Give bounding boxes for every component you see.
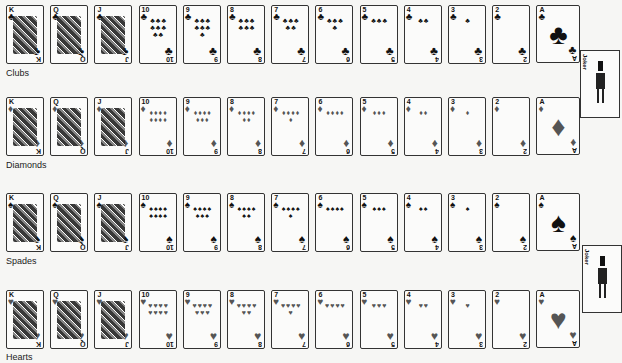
- pips: [501, 109, 523, 145]
- rank-index-inverted: 8: [258, 55, 262, 63]
- card-a-spades[interactable]: A♠♠A♠: [536, 193, 580, 251]
- hearts-icon: ♥: [450, 297, 456, 307]
- card-8-hearts[interactable]: 8♥♥8♥♥♥♥♥♥: [227, 290, 265, 349]
- card-k-spades[interactable]: K♠♠K: [6, 193, 44, 252]
- card-7-clubs[interactable]: 7♣♣7♣♣♣♣♣: [271, 5, 309, 64]
- card-5-hearts[interactable]: 5♥♥5♥♥♥: [360, 290, 398, 349]
- card-3-clubs[interactable]: 3♣♣3♣: [448, 5, 486, 64]
- card-5-diamonds[interactable]: 5♦♦5♦♦♦: [360, 97, 398, 156]
- card-10-diamonds[interactable]: 10♦♦10♦♦♦♦♦♦♦♦: [139, 97, 177, 156]
- rank-index-inverted: J: [125, 243, 129, 251]
- card-3-hearts[interactable]: 3♥♥3♥: [448, 290, 486, 349]
- card-k-hearts[interactable]: K♥♥K: [6, 290, 44, 349]
- suit-label-diamonds: Diamonds: [6, 160, 47, 170]
- card-4-clubs[interactable]: 4♣♣4♣♣: [404, 5, 442, 64]
- card-9-clubs[interactable]: 9♣♣9♣♣♣♣♣♣♣: [183, 5, 221, 64]
- rank-index-inverted: 8: [258, 147, 262, 155]
- card-j-spades[interactable]: J♠♠J: [94, 193, 132, 252]
- card-joker-2[interactable]: Joker: [582, 245, 622, 313]
- pips: ♣♣: [413, 17, 435, 53]
- card-4-hearts[interactable]: 4♥♥4♥♥: [404, 290, 442, 349]
- card-9-diamonds[interactable]: 9♦♦9♦♦♦♦♦♦♦: [183, 97, 221, 156]
- rank-index-inverted: 10: [166, 55, 174, 63]
- card-k-clubs[interactable]: K♣♣K: [6, 5, 44, 64]
- card-2-diamonds[interactable]: 2♦♦2: [492, 97, 530, 156]
- rank-index-inverted: J: [125, 147, 129, 155]
- card-2-clubs[interactable]: 2♣♣2: [492, 5, 530, 64]
- pips: ♦♦♦♦: [324, 109, 346, 145]
- hearts-icon: ♥: [229, 297, 235, 307]
- card-4-diamonds[interactable]: 4♦♦4♦♦: [404, 97, 442, 156]
- pips: [501, 302, 523, 338]
- pips: ♣♣♣♣: [324, 17, 346, 53]
- clubs-icon: ♣: [494, 12, 501, 22]
- pips: ♠♠♠♠♠♠: [236, 205, 258, 241]
- pips: ♣♣♣♣♣: [280, 17, 302, 53]
- card-9-spades[interactable]: 9♠♠9♠♠♠♠♠♠♠: [183, 193, 221, 252]
- card-6-clubs[interactable]: 6♣♣6♣♣♣♣: [315, 5, 353, 64]
- rank-index-inverted: J: [125, 340, 129, 348]
- card-j-hearts[interactable]: J♥♥J: [94, 290, 132, 349]
- pips: ♥♥♥♥♥♥: [236, 302, 258, 338]
- card-q-diamonds[interactable]: Q♦♦Q: [50, 97, 88, 156]
- card-5-spades[interactable]: 5♠♠5♠♠♠: [360, 193, 398, 252]
- card-7-hearts[interactable]: 7♥♥7♥♥♥♥♥: [271, 290, 309, 349]
- card-a-clubs[interactable]: A♣♣A♣: [536, 5, 580, 63]
- rank-index-inverted: 9: [214, 55, 218, 63]
- rank-index-inverted: 10: [166, 243, 174, 251]
- card-2-hearts[interactable]: 2♥♥2: [492, 290, 530, 349]
- rank-index-inverted: 7: [302, 340, 306, 348]
- card-9-hearts[interactable]: 9♥♥9♥♥♥♥♥♥♥: [183, 290, 221, 349]
- card-k-diamonds[interactable]: K♦♦K: [6, 97, 44, 156]
- diamonds-icon: ♦: [141, 104, 146, 114]
- pips: ♦♦: [413, 109, 435, 145]
- rank-index-inverted: 4: [435, 340, 439, 348]
- clubs-icon: ♣: [537, 20, 579, 50]
- card-q-clubs[interactable]: Q♣♣Q: [50, 5, 88, 64]
- card-7-spades[interactable]: 7♠♠7♠♠♠♠♠: [271, 193, 309, 252]
- hearts-icon: ♥: [362, 297, 368, 307]
- card-8-diamonds[interactable]: 8♦♦8♦♦♦♦♦♦: [227, 97, 265, 156]
- spades-icon: ♠: [450, 200, 455, 210]
- rank-index-inverted: 3: [479, 147, 483, 155]
- pips: ♥♥♥♥: [324, 302, 346, 338]
- card-4-spades[interactable]: 4♠♠4♠♠: [404, 193, 442, 252]
- card-10-clubs[interactable]: 10♣♣10♣♣♣♣♣♣♣♣: [139, 5, 177, 64]
- suit-label-clubs: Clubs: [6, 68, 29, 78]
- card-6-spades[interactable]: 6♠♠6♠♠♠♠: [315, 193, 353, 252]
- card-j-diamonds[interactable]: J♦♦J: [94, 97, 132, 156]
- spades-icon: ♠: [537, 208, 579, 238]
- card-q-spades[interactable]: Q♠♠Q: [50, 193, 88, 252]
- pips: ♦♦♦♦♦♦♦♦: [148, 109, 170, 145]
- hearts-icon: ♥: [185, 297, 191, 307]
- face-figure-icon: [13, 16, 37, 54]
- clubs-icon: ♣: [317, 12, 324, 22]
- card-6-hearts[interactable]: 6♥♥6♥♥♥♥: [315, 290, 353, 349]
- face-figure-icon: [57, 204, 81, 242]
- card-8-spades[interactable]: 8♠♠8♠♠♠♠♠♠: [227, 193, 265, 252]
- spades-icon: ♠: [273, 200, 278, 210]
- card-joker-1[interactable]: Joker: [580, 50, 620, 118]
- rank-index-inverted: 6: [346, 340, 350, 348]
- card-a-hearts[interactable]: A♥♥A♥: [536, 290, 580, 348]
- rank-index-inverted: J: [125, 55, 129, 63]
- card-10-spades[interactable]: 10♠♠10♠♠♠♠♠♠♠♠: [139, 193, 177, 252]
- rank-index-inverted: 4: [435, 147, 439, 155]
- card-10-hearts[interactable]: 10♥♥10♥♥♥♥♥♥♥♥: [139, 290, 177, 349]
- card-j-clubs[interactable]: J♣♣J: [94, 5, 132, 64]
- card-3-spades[interactable]: 3♠♠3♠: [448, 193, 486, 252]
- suit-label-spades: Spades: [6, 256, 37, 266]
- card-q-hearts[interactable]: Q♥♥Q: [50, 290, 88, 349]
- card-7-diamonds[interactable]: 7♦♦7♦♦♦♦♦: [271, 97, 309, 156]
- card-5-clubs[interactable]: 5♣♣5♣♣♣: [360, 5, 398, 64]
- card-6-diamonds[interactable]: 6♦♦6♦♦♦♦: [315, 97, 353, 156]
- rank-index-inverted: K: [36, 243, 41, 251]
- card-2-spades[interactable]: 2♠♠2: [492, 193, 530, 252]
- rank-index-inverted: 9: [214, 147, 218, 155]
- card-a-diamonds[interactable]: A♦♦A♦: [536, 97, 580, 155]
- card-3-diamonds[interactable]: 3♦♦3♦: [448, 97, 486, 156]
- spades-icon: ♠: [362, 200, 367, 210]
- pips: ♥♥: [413, 302, 435, 338]
- card-8-clubs[interactable]: 8♣♣8♣♣♣♣♣♣: [227, 5, 265, 64]
- hearts-icon: ♥: [273, 297, 279, 307]
